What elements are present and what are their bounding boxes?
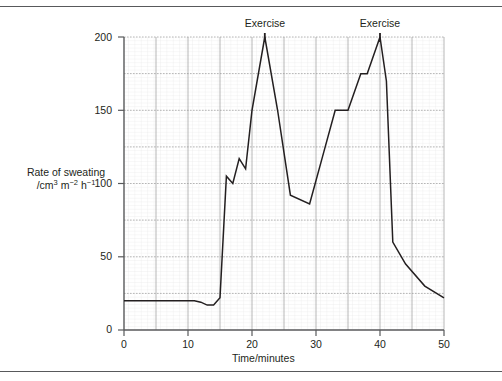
annotation-exercise-2: Exercise bbox=[345, 17, 415, 29]
y-axis-ticks bbox=[118, 37, 124, 330]
y-axis-unit-mid-1: m bbox=[58, 179, 70, 191]
x-axis-label: Time/minutes bbox=[232, 352, 295, 365]
x-tick-label-10: 10 bbox=[173, 338, 203, 350]
y-axis-unit-sup-2: −2 bbox=[69, 178, 78, 187]
line-chart: Rate of sweating /cm3 m−2 h−1 Time/minut… bbox=[0, 0, 502, 381]
y-axis-unit-prefix: /cm bbox=[37, 179, 54, 191]
y-tick-label-100: 100 bbox=[82, 177, 112, 189]
figure-container: Rate of sweating /cm3 m−2 h−1 Time/minut… bbox=[0, 0, 502, 381]
annotation-exercise-1: Exercise bbox=[230, 17, 300, 29]
x-tick-label-20: 20 bbox=[237, 338, 267, 350]
x-tick-label-0: 0 bbox=[109, 338, 139, 350]
x-axis-ticks bbox=[124, 330, 444, 336]
y-tick-label-150: 150 bbox=[82, 104, 112, 116]
y-tick-label-200: 200 bbox=[82, 31, 112, 43]
y-tick-label-0: 0 bbox=[82, 323, 112, 335]
y-tick-label-50: 50 bbox=[82, 250, 112, 262]
x-tick-label-40: 40 bbox=[365, 338, 395, 350]
x-tick-label-30: 30 bbox=[301, 338, 331, 350]
x-tick-label-50: 50 bbox=[429, 338, 459, 350]
